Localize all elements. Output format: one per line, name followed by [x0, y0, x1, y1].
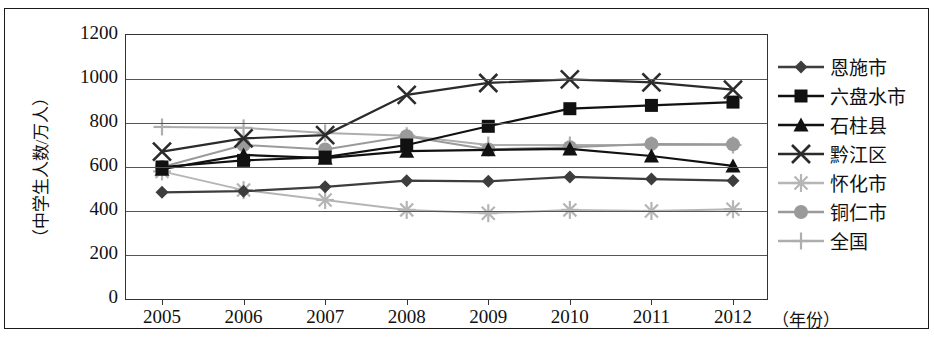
x-tick-label: 2011: [633, 306, 670, 328]
legend-label: 石柱县: [830, 111, 887, 138]
y-tick-label: 800: [90, 111, 119, 130]
circle-marker: [726, 137, 740, 151]
chart-figure: （中学生人数/万人） 120010008006004002000 2005200…: [0, 0, 934, 337]
y-tick-label: 1200: [80, 23, 118, 42]
circle-marker: [778, 201, 824, 223]
x-tick-label: 2012: [714, 306, 752, 328]
legend-label: 黔江区: [830, 140, 887, 167]
legend-item-六盘水市[interactable]: 六盘水市: [778, 81, 928, 110]
square-marker: [237, 154, 250, 167]
grid-line: [126, 123, 767, 124]
x-tick-label: 2010: [551, 306, 589, 328]
circle-marker: [794, 205, 808, 219]
diamond-marker: [156, 186, 169, 199]
y-tick-label: 400: [90, 199, 119, 218]
diamond-marker: [645, 173, 658, 186]
grid-line: [126, 211, 767, 212]
legend-item-铜仁市[interactable]: 铜仁市: [778, 197, 928, 226]
grid-line: [126, 79, 767, 80]
plus-marker: [778, 230, 824, 252]
asterisk-marker: [479, 204, 497, 222]
square-marker: [482, 120, 495, 133]
y-tick-label: 0: [109, 287, 119, 306]
legend-label: 六盘水市: [830, 82, 906, 109]
legend-item-石柱县[interactable]: 石柱县: [778, 110, 928, 139]
legend-label: 全国: [830, 227, 868, 254]
y-tick-label: 1000: [80, 67, 118, 86]
x-axis-label: （年份）: [772, 306, 840, 331]
y-axis-label: （中学生人数/万人）: [27, 58, 52, 278]
x-axis-tick-labels: 20052006200720082009201020112012: [125, 302, 768, 332]
chart-legend: 恩施市六盘水市石柱县黔江区怀化市铜仁市全国: [778, 52, 928, 255]
asterisk-marker: [398, 201, 416, 219]
legend-label: 铜仁市: [830, 198, 887, 225]
square-marker: [727, 96, 740, 109]
diamond-marker: [400, 174, 413, 187]
x-tick-label: 2009: [469, 306, 507, 328]
diamond-marker: [319, 180, 332, 193]
legend-item-怀化市[interactable]: 怀化市: [778, 168, 928, 197]
square-marker: [795, 89, 808, 102]
asterisk-marker: [792, 174, 810, 192]
legend-item-全国[interactable]: 全国: [778, 226, 928, 255]
plot-area: [125, 34, 768, 300]
asterisk-marker: [778, 172, 824, 194]
x-marker: [778, 143, 824, 165]
y-tick-label: 600: [90, 155, 119, 174]
square-marker: [400, 139, 413, 152]
x-tick-label: 2008: [388, 306, 426, 328]
x-tick-label: 2006: [225, 306, 263, 328]
y-tick-label: 200: [90, 243, 119, 262]
square-marker: [563, 102, 576, 115]
diamond-marker: [482, 175, 495, 188]
legend-label: 怀化市: [830, 169, 887, 196]
diamond-marker: [795, 60, 808, 73]
legend-item-恩施市[interactable]: 恩施市: [778, 52, 928, 81]
diamond-marker: [563, 170, 576, 183]
plus-marker: [793, 232, 810, 249]
y-axis-label-container: （中学生人数/万人）: [14, 60, 48, 300]
asterisk-marker: [316, 191, 334, 209]
square-marker: [778, 85, 824, 107]
asterisk-marker: [561, 201, 579, 219]
square-marker: [319, 151, 332, 164]
grid-line: [126, 255, 767, 256]
x-tick-label: 2005: [143, 306, 181, 328]
plus-marker: [154, 118, 171, 135]
y-axis-tick-labels: 120010008006004002000: [55, 0, 118, 337]
asterisk-marker: [724, 200, 742, 218]
legend-item-黔江区[interactable]: 黔江区: [778, 139, 928, 168]
grid-line: [126, 167, 767, 168]
diamond-marker: [727, 174, 740, 187]
x-tick-label: 2007: [306, 306, 344, 328]
diamond-marker: [778, 56, 824, 78]
square-marker: [645, 99, 658, 112]
legend-label: 恩施市: [830, 53, 887, 80]
triangle-marker: [778, 114, 824, 136]
